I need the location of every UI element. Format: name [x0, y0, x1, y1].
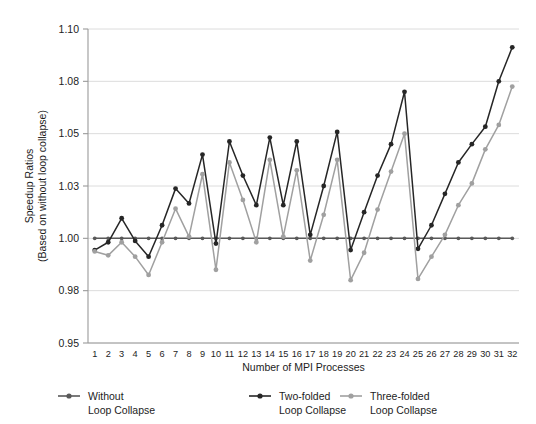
data-point: [173, 186, 178, 191]
chart-canvas: 1.101.081.051.031.000.980.95 12345678910…: [0, 0, 536, 424]
data-point: [483, 147, 488, 152]
data-point: [456, 203, 461, 208]
x-tick-label-5: 5: [146, 349, 151, 359]
data-point: [335, 236, 339, 240]
data-point: [268, 236, 272, 240]
data-point: [389, 236, 393, 240]
data-point: [120, 236, 124, 240]
data-point: [389, 142, 394, 147]
data-point: [133, 239, 138, 244]
data-point: [362, 250, 367, 255]
x-tick-label-32: 32: [507, 349, 517, 359]
data-point: [483, 124, 488, 129]
data-point: [470, 236, 474, 240]
data-point: [456, 236, 460, 240]
x-tick-label-16: 16: [292, 349, 302, 359]
data-point: [510, 45, 515, 50]
data-point: [214, 241, 219, 246]
y-tick-label-1.05: 1.05: [59, 127, 80, 139]
x-tick-label-24: 24: [399, 349, 409, 359]
data-point: [254, 240, 259, 245]
x-tick-label-4: 4: [133, 349, 138, 359]
x-tick-label-12: 12: [238, 349, 248, 359]
legend-label-line2: Loop Collapse: [88, 404, 155, 416]
x-tick-label-7: 7: [173, 349, 178, 359]
data-point: [497, 236, 501, 240]
data-point: [200, 172, 205, 177]
data-point: [254, 203, 259, 208]
data-point: [403, 236, 407, 240]
data-point: [308, 232, 313, 237]
x-tick-label-13: 13: [251, 349, 261, 359]
data-point: [376, 236, 380, 240]
data-point: [295, 236, 299, 240]
legend-label-line2: Loop Collapse: [370, 404, 437, 416]
data-point: [200, 152, 205, 157]
legend-label-line2: Loop Collapse: [279, 404, 346, 416]
x-tick-label-1: 1: [92, 349, 97, 359]
data-point: [362, 210, 367, 215]
x-tick-label-14: 14: [265, 349, 275, 359]
data-point: [321, 212, 326, 217]
data-point: [119, 216, 124, 221]
x-tick-label-25: 25: [413, 349, 423, 359]
legend-label-line1: Two-folded: [279, 390, 331, 402]
data-point: [160, 223, 165, 228]
data-point: [187, 234, 192, 239]
y-tick-label-1.03: 1.03: [59, 180, 80, 192]
data-point: [133, 254, 138, 259]
data-point: [240, 198, 245, 203]
data-point: [443, 232, 448, 237]
data-point: [510, 236, 514, 240]
data-point: [348, 248, 353, 253]
x-tick-label-22: 22: [372, 349, 382, 359]
legend-marker-icon: [348, 393, 353, 398]
data-point: [294, 168, 299, 173]
x-tick-label-9: 9: [200, 349, 205, 359]
x-tick-label-30: 30: [480, 349, 490, 359]
x-tick-label-3: 3: [119, 349, 124, 359]
x-tick-label-10: 10: [211, 349, 221, 359]
data-point: [240, 173, 245, 178]
y-axis-title-line1: Speedup Ratios: [23, 149, 35, 224]
data-point: [146, 254, 151, 259]
data-point: [416, 246, 421, 251]
data-point: [483, 236, 487, 240]
data-point: [106, 240, 111, 245]
data-point: [160, 240, 165, 245]
y-tick-label-0.95: 0.95: [59, 337, 80, 349]
data-point: [321, 184, 326, 189]
data-point: [119, 240, 124, 245]
x-tick-label-17: 17: [305, 349, 315, 359]
data-point: [308, 258, 313, 263]
data-point: [348, 278, 353, 283]
data-point: [416, 276, 421, 281]
data-point: [267, 135, 272, 140]
data-point: [294, 139, 299, 144]
x-tick-label-26: 26: [426, 349, 436, 359]
data-point: [93, 236, 97, 240]
data-point: [146, 273, 151, 278]
data-point: [335, 130, 340, 135]
y-axis-title-line2: (Based on without loop collapse): [36, 110, 48, 262]
data-point: [187, 201, 192, 206]
data-point: [267, 157, 272, 162]
data-point: [281, 234, 286, 239]
y-tick-label-1.00: 1.00: [59, 232, 80, 244]
y-tick-label-1.10: 1.10: [59, 23, 80, 35]
legend-label-line1: Three-folded: [370, 390, 430, 402]
data-point: [510, 84, 515, 89]
data-point: [496, 79, 501, 84]
x-tick-label-6: 6: [160, 349, 165, 359]
data-point: [147, 236, 151, 240]
data-point: [429, 254, 434, 259]
legend-marker-icon: [257, 393, 262, 398]
data-point: [469, 142, 474, 147]
data-point: [496, 123, 501, 128]
x-tick-label-18: 18: [319, 349, 329, 359]
data-point: [173, 206, 178, 211]
x-tick-label-15: 15: [278, 349, 288, 359]
data-point: [92, 249, 97, 254]
x-axis-title: Number of MPI Processes: [242, 361, 365, 373]
data-point: [389, 169, 394, 174]
